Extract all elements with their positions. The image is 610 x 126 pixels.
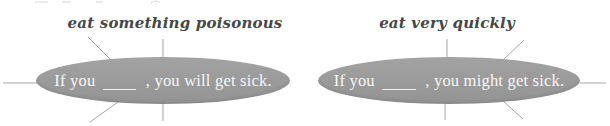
right-sentence-suffix: , you might get sick. (425, 71, 564, 90)
left-fill-in-blank: ____ (103, 75, 137, 91)
left-connector-southwest (90, 102, 118, 122)
left-sentence-ellipse: If you ____ , you will get sick. (36, 57, 290, 104)
right-connector-southeast (503, 101, 523, 119)
right-answer-label: eat very quickly (337, 14, 557, 33)
left-answer-label: eat something poisonous (65, 14, 285, 33)
left-sentence-suffix: , you will get sick. (146, 71, 272, 90)
left-sentence: If you ____ , you will get sick. (54, 71, 271, 91)
left-connector-northwest (88, 37, 112, 61)
right-fill-in-blank: ____ (382, 75, 416, 91)
right-connector-northeast (503, 40, 524, 60)
right-sentence-ellipse: If you ____ , you might get sick. (318, 57, 580, 104)
cropped-text-artifact (151, 1, 160, 3)
left-sentence-prefix: If you (54, 71, 95, 90)
right-sentence-prefix: If you (334, 71, 375, 90)
sentence-cluster-diagram: eat something poisonous eat very quickly… (0, 0, 610, 126)
right-sentence: If you ____ , you might get sick. (334, 71, 565, 91)
